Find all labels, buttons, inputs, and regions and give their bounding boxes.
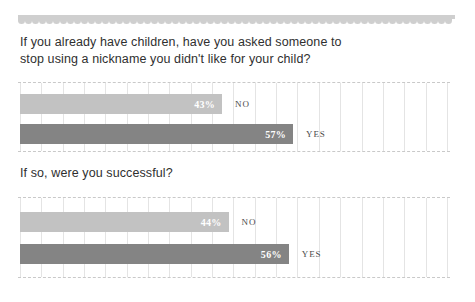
scallop-dot xyxy=(137,17,144,24)
gridlines-2 xyxy=(20,198,448,277)
scallop-dot xyxy=(67,17,74,24)
scallop-dot xyxy=(270,17,277,24)
scallop-dot xyxy=(333,17,340,24)
scallop-dot xyxy=(382,17,389,24)
scallop-dot xyxy=(144,17,151,24)
scallop-dot xyxy=(389,17,396,24)
scallop-dot xyxy=(277,17,284,24)
scallop-dot xyxy=(291,17,298,24)
scallop-dot xyxy=(60,17,67,24)
scallop-dot xyxy=(375,17,382,24)
scallop-dot xyxy=(298,17,305,24)
bar-value-no-2: 44% xyxy=(201,217,222,228)
scallop-dot xyxy=(221,17,228,24)
gridline xyxy=(255,198,256,277)
infographic-page: If you already have children, have you a… xyxy=(0,0,475,302)
dashed-rule-bottom-2 xyxy=(18,277,450,278)
scallop-dot xyxy=(81,17,88,24)
bar-yes-2: 56% xyxy=(20,244,289,264)
plot-area-2: 44% NO 56% YES xyxy=(18,197,450,278)
gridline xyxy=(169,198,170,277)
gridline xyxy=(276,198,277,277)
bar-row-no-2: 44% NO xyxy=(20,212,450,232)
bar-row-yes-2: 56% YES xyxy=(20,244,450,264)
chart-question-2: 44% NO 56% YES xyxy=(18,197,450,278)
question-1-heading: If you already have children, have you a… xyxy=(20,34,350,68)
scallop-dot xyxy=(235,17,242,24)
scallop-dot xyxy=(403,17,410,24)
scallop-dot xyxy=(95,17,102,24)
bar-value-yes-1: 57% xyxy=(265,129,286,140)
gridline xyxy=(84,198,85,277)
question-2-heading: If so, were you successful? xyxy=(20,165,350,182)
scallop-dot xyxy=(53,17,60,24)
gridline xyxy=(41,198,42,277)
plot-area-1: 43% NO 57% YES xyxy=(18,82,450,152)
scallop-dot xyxy=(102,17,109,24)
scallop-dot xyxy=(340,17,347,24)
scallop-dot xyxy=(109,17,116,24)
bar-category-yes-1: YES xyxy=(306,129,326,139)
scallop-dot xyxy=(431,17,438,24)
scallop-dot xyxy=(165,17,172,24)
scallop-dot xyxy=(347,17,354,24)
scallop-dot xyxy=(200,17,207,24)
scallop-dot xyxy=(207,17,214,24)
scalloped-border-decoration xyxy=(18,15,455,25)
dashed-rule-bottom-1 xyxy=(18,151,450,152)
scallop-dot xyxy=(214,17,221,24)
scallop-dot xyxy=(151,17,158,24)
bar-value-yes-2: 56% xyxy=(261,249,282,260)
scallop-dot xyxy=(32,17,39,24)
gridline xyxy=(297,198,298,277)
scallop-dot xyxy=(123,17,130,24)
gridline xyxy=(362,198,363,277)
dashed-rule-top-2 xyxy=(18,197,450,198)
scallop-dot xyxy=(438,17,445,24)
gridline xyxy=(191,198,192,277)
scallop-dot xyxy=(417,17,424,24)
gridline xyxy=(426,198,427,277)
bar-value-no-1: 43% xyxy=(194,99,215,110)
scallop-dot xyxy=(361,17,368,24)
scallop-dot xyxy=(445,17,452,24)
scallop-dot xyxy=(368,17,375,24)
bar-category-no-2: NO xyxy=(242,217,257,227)
scallop-dot xyxy=(46,17,53,24)
scallop-dot xyxy=(179,17,186,24)
bar-category-no-1: NO xyxy=(235,99,250,109)
scallop-dot xyxy=(228,17,235,24)
scallop-dot xyxy=(319,17,326,24)
scallop-dot xyxy=(193,17,200,24)
scallop-dots xyxy=(18,17,455,25)
scallop-dot xyxy=(305,17,312,24)
bar-category-yes-2: YES xyxy=(302,249,322,259)
dashed-rule-top-1 xyxy=(18,82,450,83)
scallop-dot xyxy=(74,17,81,24)
bar-row-yes-1: 57% YES xyxy=(20,124,450,144)
scallop-dot xyxy=(263,17,270,24)
scallop-dot xyxy=(158,17,165,24)
scallop-dot xyxy=(249,17,256,24)
bar-no-2: 44% xyxy=(20,212,229,232)
scallop-dot xyxy=(312,17,319,24)
scallop-dot xyxy=(116,17,123,24)
scallop-dot xyxy=(326,17,333,24)
scallop-dot xyxy=(25,17,32,24)
bar-row-no-1: 43% NO xyxy=(20,94,450,114)
gridline xyxy=(127,198,128,277)
scallop-dot xyxy=(396,17,403,24)
chart-question-1: 43% NO 57% YES xyxy=(18,82,450,152)
scallop-dot xyxy=(242,17,249,24)
scallop-dot xyxy=(424,17,431,24)
gridline xyxy=(148,198,149,277)
scallop-dot xyxy=(18,17,25,24)
scallop-dot xyxy=(39,17,46,24)
bar-no-1: 43% xyxy=(20,94,222,114)
gridline xyxy=(340,198,341,277)
scallop-dot xyxy=(172,17,179,24)
bar-yes-1: 57% xyxy=(20,124,293,144)
gridline xyxy=(105,198,106,277)
gridline xyxy=(63,198,64,277)
gridline xyxy=(319,198,320,277)
